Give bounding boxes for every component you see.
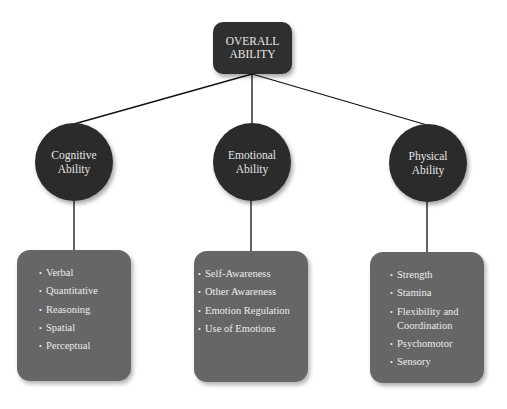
root-label-line2: ABILITY (226, 48, 280, 61)
bullet-icon: • (390, 336, 397, 353)
list-item: •Strength (390, 266, 484, 284)
bullet-icon: • (390, 285, 397, 302)
list-item: •Verbal (39, 264, 131, 282)
list-item: •Reasoning (39, 301, 131, 319)
emotional-subskills-list: •Self-Awareness •Other Awareness •Emotio… (198, 265, 308, 338)
bullet-icon: • (390, 354, 397, 371)
bullet-icon: • (39, 265, 46, 282)
node-label: Cognitive (51, 148, 96, 162)
emotional-subskills-box: •Self-Awareness •Other Awareness •Emotio… (194, 251, 308, 382)
node-emotional-ability: Emotional Ability (213, 123, 291, 201)
node-physical-ability: Physical Ability (389, 124, 467, 202)
list-item: •Sensory (390, 353, 484, 371)
bullet-icon: • (198, 284, 205, 301)
list-item: •Perceptual (39, 337, 131, 355)
root-label-line1: OVERALL (226, 35, 280, 48)
physical-subskills-list: •Strength •Stamina •Flexibility andCoord… (390, 266, 484, 371)
cognitive-subskills-list: •Verbal •Quantitative •Reasoning •Spatia… (39, 264, 131, 355)
bullet-icon: • (198, 321, 205, 338)
list-item: •Use of Emotions (198, 320, 308, 338)
list-item: •Flexibility andCoordination (390, 303, 484, 333)
node-label: Ability (58, 162, 91, 176)
node-label: Ability (236, 162, 269, 176)
list-item: •Emotion Regulation (198, 302, 308, 320)
bullet-icon: • (390, 267, 397, 284)
list-item: •Stamina (390, 284, 484, 302)
list-item: •Quantitative (39, 282, 131, 300)
list-item: •Self-Awareness (198, 265, 308, 283)
bullet-icon: • (198, 266, 205, 283)
node-label: Physical (409, 149, 448, 163)
node-label: Ability (412, 163, 445, 177)
bullet-icon: • (198, 303, 205, 320)
bullet-icon: • (390, 306, 397, 320)
root-node-overall-ability: OVERALL ABILITY (213, 22, 292, 74)
bullet-icon: • (39, 283, 46, 300)
bullet-icon: • (39, 302, 46, 319)
list-item: •Psychomotor (390, 333, 484, 353)
list-item: •Spatial (39, 319, 131, 337)
node-cognitive-ability: Cognitive Ability (35, 123, 113, 201)
bullet-icon: • (39, 338, 46, 355)
physical-subskills-box: •Strength •Stamina •Flexibility andCoord… (370, 252, 484, 383)
bullet-icon: • (39, 320, 46, 337)
node-label: Emotional (228, 148, 276, 162)
cognitive-subskills-box: •Verbal •Quantitative •Reasoning •Spatia… (17, 250, 131, 381)
list-item: •Other Awareness (198, 283, 308, 301)
